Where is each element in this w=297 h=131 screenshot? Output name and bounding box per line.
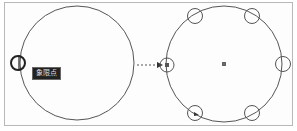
snap-tooltip: 象限点	[32, 67, 61, 80]
center-marker-icon	[222, 62, 226, 66]
diagram-canvas	[0, 0, 297, 131]
quadrant-marker-bottom-right	[245, 106, 260, 121]
dashed-arrow-icon	[137, 62, 163, 68]
quadrant-marker-top-left	[188, 9, 203, 24]
quadrant-marker-right	[276, 57, 291, 72]
snap-marker-icon	[11, 55, 25, 71]
left-circle	[20, 6, 134, 120]
